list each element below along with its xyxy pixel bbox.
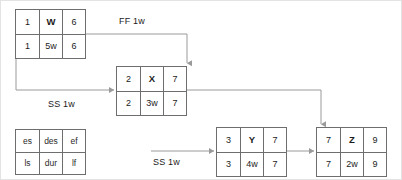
node-z-lf: 9 bbox=[363, 152, 386, 176]
link-label-ss-1w-yz: SS 1w bbox=[153, 158, 180, 167]
node-w-lf: 6 bbox=[62, 34, 85, 58]
link-x-z bbox=[185, 90, 321, 124]
node-x-ls: 2 bbox=[117, 91, 140, 115]
legend-lf: lf bbox=[62, 152, 85, 174]
node-z-ls: 7 bbox=[317, 152, 340, 176]
legend-es: es bbox=[16, 130, 39, 152]
activity-node-x[interactable]: 2 X 7 2 3w 7 bbox=[116, 66, 187, 116]
legend-des: des bbox=[39, 130, 62, 152]
node-w-dur: 5w bbox=[39, 34, 62, 58]
legend-ef: ef bbox=[62, 130, 85, 152]
node-y-name: Y bbox=[240, 128, 263, 152]
node-w-es: 1 bbox=[16, 10, 39, 34]
activity-node-z[interactable]: 7 Z 9 7 2w 9 bbox=[316, 127, 387, 177]
network-diagram-canvas: 1 W 6 1 5w 6 2 X 7 2 3w 7 3 Y 7 3 4w 7 7… bbox=[0, 0, 402, 180]
link-w-x-ss bbox=[16, 58, 114, 90]
node-x-ef: 7 bbox=[163, 67, 186, 91]
link-label-ss-1w-wx: SS 1w bbox=[48, 100, 75, 109]
node-z-ef: 9 bbox=[363, 128, 386, 152]
node-x-lf: 7 bbox=[163, 91, 186, 115]
node-y-lf: 7 bbox=[263, 152, 286, 176]
legend-key-box: es des ef ls dur lf bbox=[15, 129, 86, 175]
node-x-es: 2 bbox=[117, 67, 140, 91]
node-y-ls: 3 bbox=[217, 152, 240, 176]
node-w-ls: 1 bbox=[16, 34, 39, 58]
link-label-ff-1w: FF 1w bbox=[119, 17, 145, 26]
activity-node-w[interactable]: 1 W 6 1 5w 6 bbox=[15, 9, 86, 59]
node-w-ef: 6 bbox=[62, 10, 85, 34]
node-y-es: 3 bbox=[217, 128, 240, 152]
node-x-name: X bbox=[140, 67, 163, 91]
node-z-es: 7 bbox=[317, 128, 340, 152]
link-w-x-ff bbox=[84, 34, 187, 63]
activity-node-y[interactable]: 3 Y 7 3 4w 7 bbox=[216, 127, 287, 177]
legend-ls: ls bbox=[16, 152, 39, 174]
node-z-dur: 2w bbox=[340, 152, 363, 176]
node-w-name: W bbox=[39, 10, 62, 34]
node-z-name: Z bbox=[340, 128, 363, 152]
node-y-dur: 4w bbox=[240, 152, 263, 176]
node-x-dur: 3w bbox=[140, 91, 163, 115]
legend-dur: dur bbox=[39, 152, 62, 174]
node-y-ef: 7 bbox=[263, 128, 286, 152]
